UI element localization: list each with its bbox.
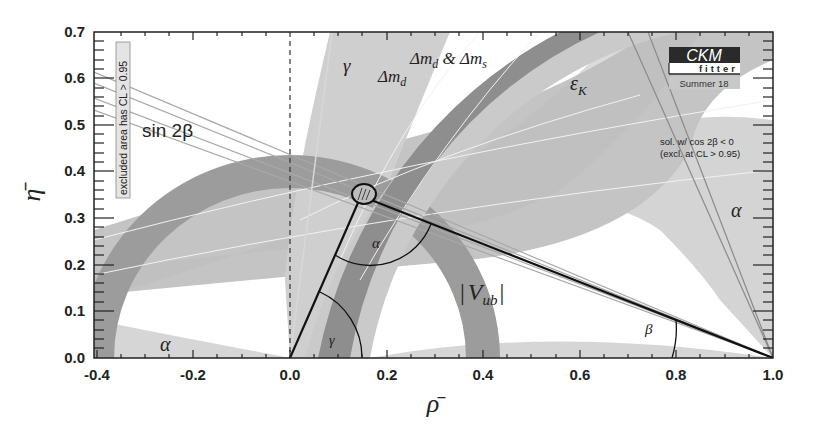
- y-tick-label: 0.6: [64, 69, 85, 86]
- x-tick-label: 0.4: [473, 366, 495, 383]
- ckmfitter-logo: CKM fitter Summer 18: [669, 47, 740, 89]
- alpha-angle-label: α: [372, 235, 381, 251]
- x-tick-labels: -0.4 -0.2 0.0 0.2 0.4 0.6 0.8 1.0: [84, 366, 783, 383]
- x-tick-label: 0.6: [570, 366, 591, 383]
- x-tick-label: 0.0: [280, 366, 301, 383]
- y-tick-label: 0.7: [64, 23, 85, 40]
- logo-edition-text: Summer 18: [679, 78, 728, 89]
- gamma-label: γ: [343, 55, 351, 76]
- delta-md-text: Δm: [377, 67, 400, 86]
- y-tick-label: 0.0: [64, 349, 85, 366]
- x-tick-label: 0.8: [666, 366, 687, 383]
- gamma-angle-label: γ: [329, 333, 335, 348]
- logo-bottom-text: fitter: [699, 63, 738, 74]
- x-axis-title: ρ̄: [426, 389, 446, 418]
- excluded-note: excluded area has CL > 0.95: [117, 61, 129, 195]
- vub-bar-right: |: [499, 279, 504, 305]
- ckm-plot: -0.4 -0.2 0.0 0.2 0.4 0.6 0.8 1.0 0.0 0.…: [0, 0, 814, 433]
- y-tick-label: 0.3: [64, 209, 85, 226]
- sol-note-line1: sol. w/ cos 2β < 0: [660, 136, 734, 147]
- alpha-label-left: α: [160, 333, 171, 355]
- logo-top-text: CKM: [686, 47, 722, 64]
- beta-angle-label: β: [644, 321, 653, 337]
- vub-bar-left: |: [460, 279, 465, 305]
- delta-md-subscript: d: [400, 75, 407, 89]
- x-tick-label: -0.2: [180, 366, 206, 383]
- epsilon-text: ε: [570, 72, 578, 94]
- sin2beta-label: sin 2β: [142, 120, 193, 141]
- alpha-label-right: α: [731, 199, 742, 221]
- y-tick-label: 0.1: [64, 302, 85, 319]
- x-tick-label: -0.4: [84, 366, 111, 383]
- sol-note-line2: (excl. at CL > 0.95): [660, 148, 740, 159]
- y-tick-label: 0.2: [64, 256, 85, 273]
- delta-ms-text: & Δm: [438, 49, 482, 68]
- y-tick-label: 0.4: [64, 162, 86, 179]
- delta-md-ms-label: Δmd & Δms: [409, 49, 487, 71]
- alpha-region-lower-left: [94, 320, 290, 358]
- delta-md-text: Δm: [409, 49, 432, 68]
- vub-subscript: ub: [482, 292, 498, 308]
- y-axis-title: η̄: [17, 182, 46, 202]
- x-tick-label: 0.2: [377, 366, 398, 383]
- epsilon-subscript: K: [577, 83, 588, 98]
- y-tick-label: 0.5: [64, 116, 85, 133]
- y-tick-labels: 0.0 0.1 0.2 0.3 0.4 0.5 0.6 0.7: [64, 23, 86, 366]
- alpha-region-bottom: [370, 342, 773, 359]
- delta-ms-subscript: s: [482, 57, 487, 71]
- x-tick-label: 1.0: [763, 366, 784, 383]
